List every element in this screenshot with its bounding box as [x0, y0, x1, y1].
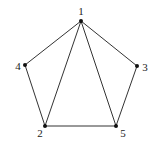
vertex-label-2: 2: [37, 127, 43, 139]
edge-3-5: [116, 66, 137, 126]
vertex-2: [43, 124, 47, 128]
vertex-3: [135, 64, 139, 68]
edge-1-2: [45, 21, 81, 126]
vertex-1: [79, 19, 83, 23]
vertex-label-3: 3: [142, 61, 148, 73]
edge-4-2: [25, 65, 45, 126]
graph-diagram: 12345: [0, 0, 162, 152]
edge-1-3: [81, 21, 137, 66]
vertex-label-5: 5: [120, 127, 126, 139]
labels-group: 12345: [15, 5, 148, 139]
vertex-label-4: 4: [15, 60, 21, 72]
edge-1-5: [81, 21, 116, 126]
edges-group: [25, 21, 137, 126]
vertex-5: [114, 124, 118, 128]
edge-1-4: [25, 21, 81, 65]
vertex-label-1: 1: [78, 5, 84, 17]
vertex-4: [23, 63, 27, 67]
